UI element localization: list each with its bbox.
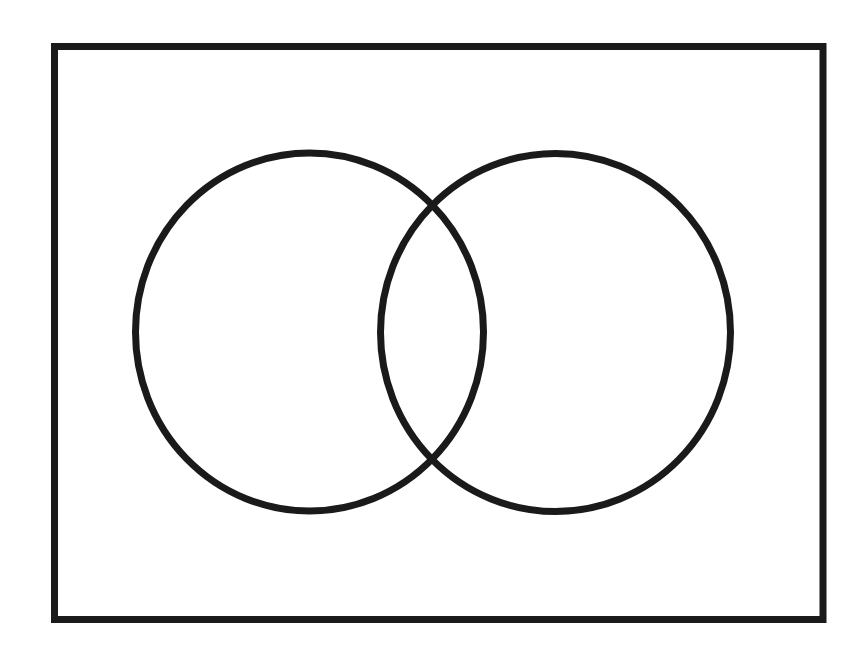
venn-diagram [0, 0, 866, 645]
right-set-circle [381, 154, 731, 512]
venn-diagram-canvas [0, 0, 866, 645]
universal-set-rectangle [55, 47, 824, 620]
